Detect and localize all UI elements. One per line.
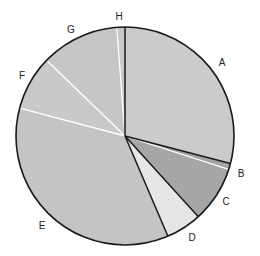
slice-label-g: G (67, 24, 75, 35)
slice-label-a: A (219, 57, 226, 68)
pie-chart: ABCDEFGH (0, 0, 260, 256)
slice-label-e: E (39, 220, 46, 231)
slice-label-f: F (19, 70, 25, 81)
slice-label-c: C (222, 196, 229, 207)
slice-label-d: D (188, 232, 195, 243)
slice-label-b: B (238, 168, 245, 179)
slice-label-h: H (115, 11, 122, 22)
